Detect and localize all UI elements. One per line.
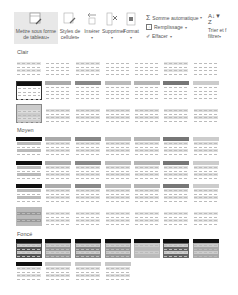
table-style-thumbnail[interactable] (45, 137, 71, 156)
clear-button[interactable]: ✐ Effacer▾ (146, 33, 172, 39)
cell-line (106, 91, 130, 92)
format-button[interactable]: Format▾ (123, 12, 139, 41)
table-style-thumbnail[interactable] (16, 262, 42, 281)
table-style-thumbnail[interactable] (134, 137, 160, 156)
table-style-thumbnail[interactable] (16, 184, 42, 203)
cell-line (164, 154, 188, 155)
cell-line (194, 201, 218, 202)
table-style-thumbnail[interactable] (45, 81, 71, 100)
cell-line (194, 154, 218, 155)
table-style-thumbnail[interactable] (193, 239, 219, 258)
table-style-thumbnail[interactable] (163, 184, 189, 203)
table-style-thumbnail[interactable] (193, 161, 219, 180)
table-style-thumbnail[interactable] (75, 81, 101, 100)
table-style-thumbnail[interactable] (134, 161, 160, 180)
table-style-thumbnail[interactable] (193, 207, 219, 226)
sort-filter-button[interactable]: A↓▼Z Trier et f filtrer▾ (208, 13, 238, 40)
table-style-thumbnail[interactable] (134, 81, 160, 100)
cell-line (194, 217, 218, 218)
table-style-thumbnail[interactable] (45, 104, 71, 123)
table-style-thumbnail[interactable] (105, 57, 131, 76)
table-style-thumbnail[interactable] (75, 161, 101, 180)
table-format-icon (29, 12, 43, 26)
cell-line (106, 256, 130, 257)
cell-styles-button[interactable]: Styles de cellules▾ (59, 12, 81, 41)
cell-line (76, 249, 100, 250)
table-style-thumbnail[interactable] (75, 104, 101, 123)
format-as-table-button[interactable]: Mettre sous forme de tableau▾ (14, 12, 58, 44)
table-style-thumbnail[interactable] (16, 161, 42, 180)
table-style-thumbnail[interactable] (105, 207, 131, 226)
fill-label: Remplissage (154, 24, 183, 30)
cell-line (46, 114, 70, 115)
table-style-thumbnail[interactable] (105, 184, 131, 203)
table-style-thumbnail[interactable] (16, 57, 42, 76)
table-style-thumbnail[interactable] (163, 104, 189, 123)
table-style-thumbnail[interactable] (193, 104, 219, 123)
table-style-thumbnail[interactable] (45, 57, 71, 76)
table-style-thumbnail[interactable] (163, 81, 189, 100)
table-style-thumbnail[interactable] (193, 57, 219, 76)
table-style-thumbnail[interactable] (75, 137, 101, 156)
cell-line (164, 252, 188, 253)
header-row (45, 262, 71, 266)
table-style-thumbnail[interactable] (16, 239, 42, 258)
cell-line (46, 178, 70, 179)
header-row (163, 161, 189, 165)
table-style-thumbnail[interactable] (134, 239, 160, 258)
table-style-thumbnail[interactable] (105, 161, 131, 180)
table-style-thumbnail[interactable] (75, 262, 101, 281)
cell-line (194, 147, 218, 148)
table-style-thumbnail[interactable] (16, 81, 42, 100)
fill-button[interactable]: ↓ Remplissage▾ (146, 24, 187, 30)
autosum-button[interactable]: Σ Somme automatique▾ (146, 14, 202, 21)
table-style-thumbnail[interactable] (163, 207, 189, 226)
cell-line (194, 67, 218, 68)
chevron-down-icon: ▾ (130, 35, 132, 40)
header-row (163, 239, 189, 243)
table-style-thumbnail[interactable] (105, 104, 131, 123)
cell-line (46, 94, 70, 95)
table-style-thumbnail[interactable] (105, 262, 131, 281)
table-style-thumbnail[interactable] (163, 57, 189, 76)
sort-filter-label2: filtrer (208, 33, 219, 39)
cell-line (135, 121, 159, 122)
table-style-thumbnail[interactable] (193, 81, 219, 100)
cell-line (46, 275, 70, 276)
table-style-thumbnail[interactable] (75, 184, 101, 203)
table-style-thumbnail[interactable] (45, 262, 71, 281)
table-style-thumbnail[interactable] (163, 161, 189, 180)
table-style-thumbnail[interactable] (134, 57, 160, 76)
cell-line (106, 213, 130, 214)
table-style-thumbnail[interactable] (45, 184, 71, 203)
table-style-thumbnail[interactable] (75, 57, 101, 76)
table-style-thumbnail[interactable] (105, 81, 131, 100)
header-row (45, 137, 71, 141)
table-style-thumbnail[interactable] (16, 137, 42, 156)
table-style-thumbnail[interactable] (134, 104, 160, 123)
delete-button[interactable]: Supprimer▾ (102, 12, 122, 41)
table-style-thumbnail[interactable] (105, 239, 131, 258)
table-style-thumbnail[interactable] (45, 161, 71, 180)
format-label: Format (123, 28, 139, 34)
table-style-thumbnail[interactable] (45, 239, 71, 258)
table-style-thumbnail[interactable] (105, 137, 131, 156)
cell-line (18, 95, 40, 96)
table-style-thumbnail[interactable] (163, 137, 189, 156)
table-style-thumbnail[interactable] (16, 207, 42, 226)
table-style-thumbnail[interactable] (193, 137, 219, 156)
insert-button[interactable]: Insérer▾ (83, 12, 101, 41)
table-style-thumbnail[interactable] (16, 104, 42, 123)
table-style-thumbnail[interactable] (163, 239, 189, 258)
header-row (16, 161, 42, 165)
cell-line (164, 213, 188, 214)
delete-cells-icon (106, 12, 118, 26)
cell-line (17, 74, 41, 75)
table-style-thumbnail[interactable] (134, 207, 160, 226)
table-style-thumbnail[interactable] (45, 207, 71, 226)
table-style-thumbnail[interactable] (193, 184, 219, 203)
table-style-thumbnail[interactable] (75, 207, 101, 226)
table-style-thumbnail[interactable] (75, 239, 101, 258)
table-style-thumbnail[interactable] (134, 184, 160, 203)
cell-line (164, 178, 188, 179)
